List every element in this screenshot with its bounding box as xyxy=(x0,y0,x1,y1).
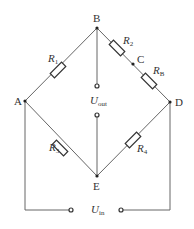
node-a-dot xyxy=(23,99,26,102)
label-rb: RB xyxy=(152,64,165,78)
label-r4: R4 xyxy=(136,142,148,156)
label-node-b: B xyxy=(93,12,100,24)
label-node-c: C xyxy=(137,53,144,65)
node-b-dot xyxy=(95,26,98,29)
label-node-e: E xyxy=(93,180,100,192)
uout-terminal-top xyxy=(95,84,99,88)
node-d-dot xyxy=(168,100,171,103)
bridge-circuit-diagram: B A D E C R1 R2 RB R3 R4 Uout Uin xyxy=(0,0,194,229)
label-u-in: Uin xyxy=(91,203,105,217)
label-node-d: D xyxy=(175,96,183,108)
label-node-a: A xyxy=(14,95,22,107)
label-r2: R2 xyxy=(122,34,134,48)
label-u-out: Uout xyxy=(90,94,107,108)
uin-terminal-left xyxy=(69,208,73,212)
node-c-dot xyxy=(131,62,134,65)
uout-terminal-bottom xyxy=(95,113,99,117)
label-r1: R1 xyxy=(47,52,59,66)
uin-terminal-right xyxy=(119,208,123,212)
node-e-dot xyxy=(95,174,98,177)
